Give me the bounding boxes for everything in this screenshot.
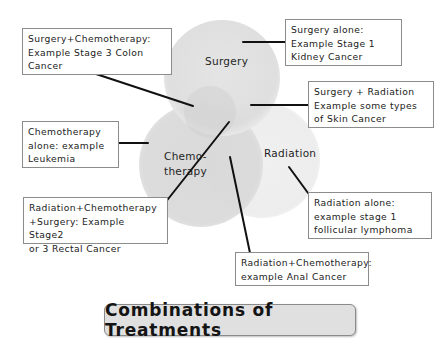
diagram-title-text: Combinations of Treatments — [105, 300, 355, 340]
venn-diagram: Surgery Chemo- therapy Radiation Surgery… — [0, 0, 448, 354]
callout-surgery-alone: Surgery alone: Example Stage 1 Kidney Ca… — [285, 19, 402, 66]
callout-radiation-chemo: Radiation+Chemotherapy: example Anal Can… — [235, 252, 369, 286]
surgery-chemo-overlap — [184, 86, 236, 138]
radiation-label: Radiation — [264, 146, 316, 161]
callout-all-three: Radiation+Chemotherapy +Surgery: Example… — [23, 197, 168, 244]
chemotherapy-label: Chemo- therapy — [164, 149, 207, 179]
callout-chemo-alone: Chemotherapy alone: example Leukemia — [22, 121, 119, 168]
callout-surgery-chemo: Surgery+Chemotherapy: Example Stage 3 Co… — [22, 28, 172, 75]
surgery-label: Surgery — [205, 54, 248, 69]
diagram-title: Combinations of Treatments — [104, 304, 356, 336]
callout-radiation-alone: Radiation alone: example stage 1 follicu… — [308, 192, 432, 239]
callout-surgery-radiation: Surgery + Radiation Example some types o… — [308, 81, 434, 128]
